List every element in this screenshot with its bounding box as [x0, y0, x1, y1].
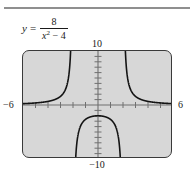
fraction-numerator: 8 [47, 16, 60, 28]
top-divider [4, 7, 190, 9]
x-min-label: −6 [3, 99, 14, 110]
y-min-label: −10 [0, 159, 194, 170]
left-branch [23, 51, 71, 104]
graph-figure: y = 8 x2 − 4 [0, 0, 194, 180]
denominator-exponent: 2 [47, 29, 51, 37]
y-max-label: 10 [0, 38, 194, 49]
plot-area [22, 50, 172, 158]
x-max-label: 6 [178, 99, 183, 110]
plot-frame [22, 50, 172, 158]
plot-canvas [23, 51, 172, 158]
right-branch [125, 51, 172, 104]
equation-lhs: y [22, 23, 30, 34]
equation-equals-sign: = [30, 23, 40, 34]
